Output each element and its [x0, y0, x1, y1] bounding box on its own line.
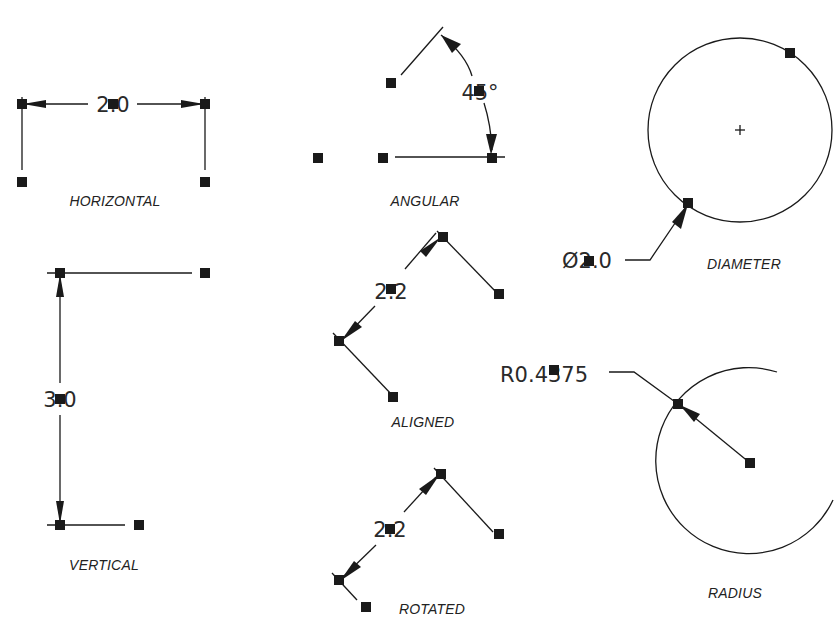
panel-label: DIAMETER: [707, 256, 781, 272]
text-grip-handle[interactable]: [55, 394, 65, 404]
grip-handle[interactable]: [487, 153, 497, 163]
grip-handle[interactable]: [313, 153, 323, 163]
grip-handle[interactable]: [134, 520, 144, 530]
text-grip-handle[interactable]: [549, 365, 559, 375]
angular-dimension: 45° ANGULAR: [313, 27, 505, 209]
extension-line: [401, 27, 443, 75]
grip-handle[interactable]: [200, 268, 210, 278]
grip-handle[interactable]: [436, 469, 446, 479]
panel-label: ROTATED: [399, 601, 465, 617]
grip-handle[interactable]: [55, 520, 65, 530]
grip-handle[interactable]: [200, 177, 210, 187]
text-grip-handle[interactable]: [584, 256, 594, 266]
arc-geometry: [656, 368, 833, 554]
panel-label: VERTICAL: [69, 557, 139, 573]
text-grip-handle[interactable]: [474, 86, 484, 96]
panel-label: RADIUS: [708, 585, 763, 601]
grip-handle[interactable]: [378, 153, 388, 163]
dimension-text: R0.4375: [500, 363, 588, 387]
text-grip-handle[interactable]: [386, 284, 396, 294]
panel-label: HORIZONTAL: [69, 193, 160, 209]
grip-handle[interactable]: [494, 529, 504, 539]
rotated-dimension: 2.2 ROTATED: [332, 468, 504, 617]
grip-handle[interactable]: [17, 99, 27, 109]
text-grip-handle[interactable]: [108, 99, 118, 109]
leader-line: [609, 372, 678, 404]
grip-handle[interactable]: [683, 198, 693, 208]
grip-handle[interactable]: [494, 289, 504, 299]
grip-handle[interactable]: [55, 268, 65, 278]
horizontal-dimension: 2.0 HORIZONTAL: [17, 93, 210, 209]
leader-line: [625, 204, 688, 260]
grip-handle[interactable]: [334, 575, 344, 585]
panel-label: ANGULAR: [389, 193, 459, 209]
grip-handle[interactable]: [334, 336, 344, 346]
grip-handle[interactable]: [386, 78, 396, 88]
center-grip-handle[interactable]: [745, 458, 755, 468]
radius-dimension: R0.4375 RADIUS: [500, 363, 833, 601]
dimension-types-diagram: 2.0 HORIZONTAL 45° ANGULAR Ø2.0 DIAMETER: [0, 0, 840, 636]
grip-handle[interactable]: [388, 392, 398, 402]
grip-handle[interactable]: [17, 177, 27, 187]
grip-handle[interactable]: [361, 602, 371, 612]
grip-handle[interactable]: [785, 48, 795, 58]
grip-handle[interactable]: [673, 399, 683, 409]
arrowhead-icon: [341, 321, 362, 341]
diameter-dimension: Ø2.0 DIAMETER: [562, 38, 832, 273]
grip-handle[interactable]: [438, 232, 448, 242]
aligned-dimension: 2.2 ALIGNED: [333, 231, 504, 430]
arrowhead-icon: [486, 134, 497, 155]
grip-handle[interactable]: [200, 99, 210, 109]
text-grip-handle[interactable]: [385, 524, 395, 534]
panel-label: ALIGNED: [391, 414, 455, 430]
vertical-dimension: 3.0 VERTICAL: [43, 268, 210, 573]
